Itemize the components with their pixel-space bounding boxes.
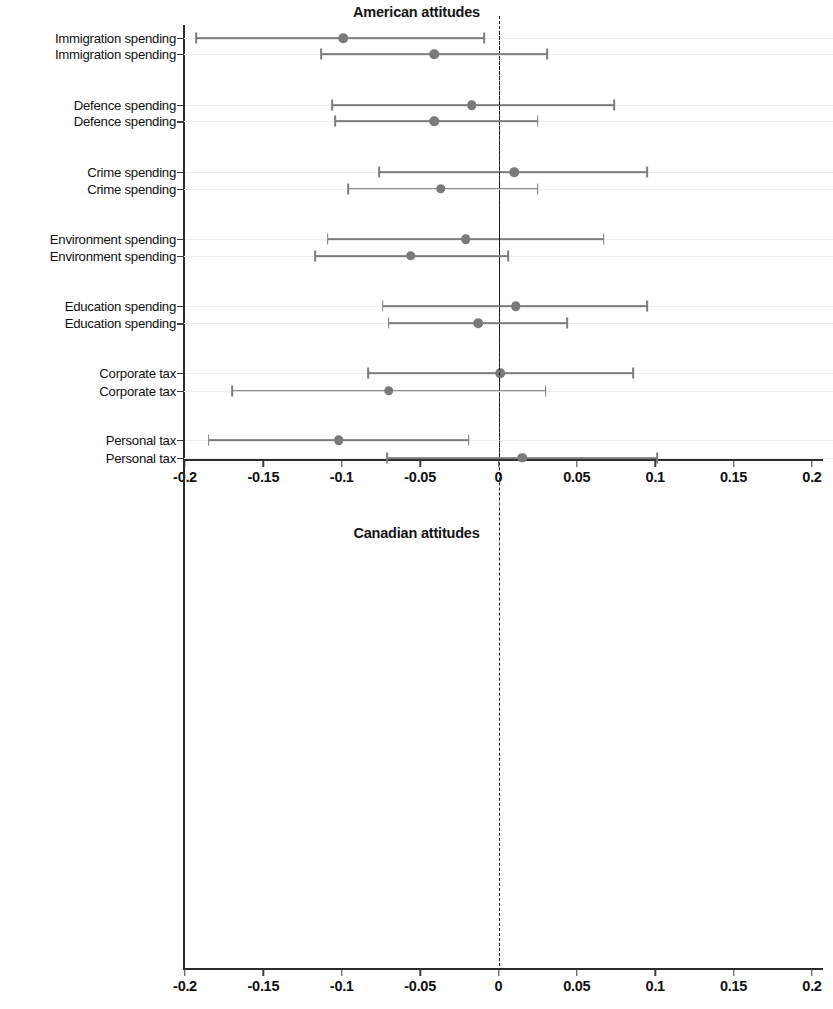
confidence-interval-cap-high bbox=[545, 385, 547, 396]
point-estimate-marker bbox=[509, 167, 519, 177]
x-axis-tick bbox=[576, 969, 577, 976]
plot-area: Immigration spendingDefence spendingCrim… bbox=[0, 505, 833, 1009]
category-label: Defence spending bbox=[74, 114, 176, 129]
confidence-interval-cap-high bbox=[603, 234, 605, 245]
category-label: Crime spending bbox=[87, 165, 176, 180]
category-label: Defence spending bbox=[74, 98, 176, 113]
category-label: Corporate tax bbox=[99, 366, 176, 381]
x-axis-tick-label: 0.05 bbox=[563, 469, 590, 485]
confidence-interval-cap-high bbox=[537, 183, 539, 194]
y-axis-tick bbox=[177, 189, 184, 190]
point-estimate-marker bbox=[429, 117, 439, 127]
figure-coefficient-plots: American attitudes Immigration spendingD… bbox=[0, 0, 833, 1009]
category-label: Environment spending bbox=[50, 248, 176, 263]
confidence-interval-cap-high bbox=[567, 318, 569, 329]
category-label: Personal tax bbox=[106, 450, 176, 465]
confidence-interval-cap-high bbox=[647, 167, 649, 178]
x-axis-tick bbox=[811, 460, 812, 467]
category-label: Immigration spending bbox=[55, 31, 176, 46]
point-estimate-marker bbox=[429, 49, 439, 59]
confidence-interval-cap-low bbox=[347, 183, 349, 194]
confidence-interval-cap-low bbox=[195, 33, 197, 44]
panel-canadian-attitudes: Canadian attitudes Immigration spendingD… bbox=[0, 505, 833, 1009]
point-estimate-marker bbox=[339, 33, 349, 43]
x-axis-tick bbox=[263, 460, 264, 467]
x-axis-tick bbox=[184, 969, 185, 976]
category-label: Personal tax bbox=[106, 433, 176, 448]
confidence-interval-cap-high bbox=[614, 100, 616, 111]
point-estimate-marker bbox=[334, 435, 344, 445]
point-estimate-marker bbox=[467, 100, 477, 110]
x-axis-tick bbox=[341, 969, 342, 976]
x-axis-tick-label: 0.2 bbox=[802, 978, 821, 994]
x-axis-tick bbox=[733, 969, 734, 976]
y-axis-tick bbox=[177, 391, 184, 392]
x-axis-tick-label: 0.05 bbox=[563, 978, 590, 994]
x-axis-line bbox=[183, 459, 823, 461]
x-axis-tick-label: -0.2 bbox=[173, 469, 197, 485]
x-axis-line bbox=[183, 968, 823, 970]
confidence-interval-cap-low bbox=[335, 116, 337, 127]
x-axis-tick bbox=[419, 460, 420, 467]
point-estimate-marker bbox=[473, 318, 483, 328]
confidence-interval-cap-low bbox=[321, 49, 323, 60]
category-label: Education spending bbox=[65, 299, 176, 314]
confidence-interval-cap-high bbox=[632, 368, 634, 379]
y-axis-tick bbox=[177, 256, 184, 257]
confidence-interval-cap-low bbox=[368, 368, 370, 379]
point-estimate-marker bbox=[511, 301, 521, 311]
x-axis-tick-label: -0.05 bbox=[404, 978, 436, 994]
confidence-interval-cap-low bbox=[379, 167, 381, 178]
x-axis-tick-label: 0.2 bbox=[802, 469, 821, 485]
confidence-interval-cap-low bbox=[386, 452, 388, 463]
x-axis-tick-label: 0.15 bbox=[720, 469, 747, 485]
category-label: Immigration spending bbox=[55, 47, 176, 62]
y-axis-tick bbox=[177, 121, 184, 122]
x-axis-tick bbox=[341, 460, 342, 467]
point-estimate-marker bbox=[495, 368, 505, 378]
category-label: Environment spending bbox=[50, 232, 176, 247]
category-label: Education spending bbox=[65, 316, 176, 331]
confidence-interval-cap-low bbox=[388, 318, 390, 329]
point-estimate-marker bbox=[436, 184, 446, 194]
confidence-interval-cap-high bbox=[537, 116, 539, 127]
confidence-interval-cap-high bbox=[546, 49, 548, 60]
confidence-interval-cap-low bbox=[314, 250, 316, 261]
x-axis-tick-label: -0.15 bbox=[248, 469, 280, 485]
y-axis-tick bbox=[177, 38, 184, 39]
confidence-interval-cap-low bbox=[382, 301, 384, 312]
x-axis-tick-label: -0.15 bbox=[248, 978, 280, 994]
confidence-interval-cap-high bbox=[656, 452, 658, 463]
point-estimate-marker bbox=[406, 251, 416, 261]
x-axis-tick-label: -0.2 bbox=[173, 978, 197, 994]
x-axis-tick bbox=[498, 969, 499, 976]
confidence-interval-cap-low bbox=[327, 234, 329, 245]
zero-reference-line bbox=[499, 32, 500, 966]
y-axis-line bbox=[183, 41, 185, 968]
y-axis-tick bbox=[177, 458, 184, 459]
point-estimate-marker bbox=[461, 234, 471, 244]
y-axis-tick bbox=[177, 54, 184, 55]
x-axis-tick-label: 0.1 bbox=[646, 978, 665, 994]
category-label: Crime spending bbox=[87, 181, 176, 196]
confidence-interval-cap-high bbox=[468, 435, 470, 446]
x-axis-tick-label: 0 bbox=[495, 978, 503, 994]
confidence-interval-cap-high bbox=[484, 33, 486, 44]
x-axis-tick bbox=[419, 969, 420, 976]
point-estimate-marker bbox=[517, 453, 527, 463]
x-axis-tick bbox=[733, 460, 734, 467]
confidence-interval-cap-high bbox=[507, 250, 509, 261]
x-axis-tick bbox=[811, 969, 812, 976]
x-axis-tick-label: 0.15 bbox=[720, 978, 747, 994]
confidence-interval-cap-low bbox=[208, 435, 210, 446]
x-axis-tick-label: -0.1 bbox=[330, 469, 354, 485]
confidence-interval-cap-low bbox=[231, 385, 233, 396]
x-axis-tick-label: -0.05 bbox=[404, 469, 436, 485]
x-axis-tick bbox=[655, 969, 656, 976]
x-axis-tick bbox=[263, 969, 264, 976]
point-estimate-marker bbox=[384, 386, 394, 396]
x-axis-tick-label: -0.1 bbox=[330, 978, 354, 994]
x-axis-tick bbox=[576, 460, 577, 467]
category-label: Corporate tax bbox=[99, 383, 176, 398]
y-axis-tick bbox=[177, 323, 184, 324]
